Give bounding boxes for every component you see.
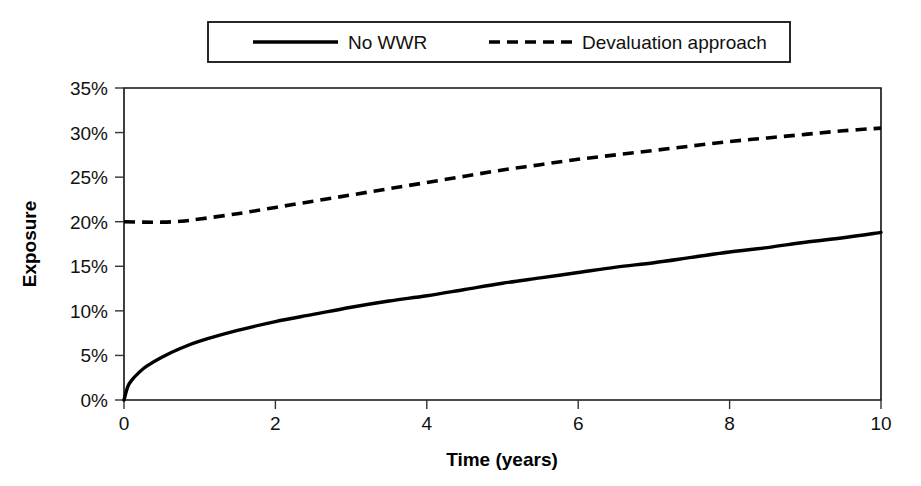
y-axis: 0% 5% 10% 15% 20% 25% 30% 35% Exposure bbox=[19, 78, 124, 411]
y-tick-label-10: 10% bbox=[70, 301, 108, 322]
y-tick-label-0: 0% bbox=[81, 390, 109, 411]
x-axis-title: Time (years) bbox=[446, 449, 558, 470]
series-line-no-wwr bbox=[124, 232, 881, 400]
legend-label-devaluation-approach: Devaluation approach bbox=[582, 32, 767, 53]
series-line-devaluation-approach bbox=[124, 128, 881, 222]
y-tick-label-15: 15% bbox=[70, 256, 108, 277]
chart-container: No WWR Devaluation approach 0% 5% 10% 15… bbox=[0, 0, 921, 486]
y-tick-label-35: 35% bbox=[70, 78, 108, 99]
x-tick-label-2: 2 bbox=[270, 413, 281, 434]
plot-border bbox=[124, 88, 881, 400]
data-series-group bbox=[124, 128, 881, 400]
legend-label-no-wwr: No WWR bbox=[348, 32, 427, 53]
x-tick-label-8: 8 bbox=[724, 413, 735, 434]
x-tick-label-0: 0 bbox=[119, 413, 130, 434]
y-tick-label-5: 5% bbox=[81, 345, 109, 366]
y-axis-title: Exposure bbox=[19, 201, 40, 288]
plot-frame bbox=[124, 88, 881, 400]
x-axis: 0 2 4 6 8 10 Time (years) bbox=[119, 400, 892, 470]
y-tick-label-25: 25% bbox=[70, 167, 108, 188]
x-tick-label-4: 4 bbox=[422, 413, 433, 434]
chart-legend: No WWR Devaluation approach bbox=[208, 22, 790, 62]
x-tick-label-10: 10 bbox=[870, 413, 891, 434]
exposure-line-chart: No WWR Devaluation approach 0% 5% 10% 15… bbox=[0, 0, 921, 486]
y-tick-label-20: 20% bbox=[70, 212, 108, 233]
x-tick-label-6: 6 bbox=[573, 413, 584, 434]
y-tick-label-30: 30% bbox=[70, 123, 108, 144]
